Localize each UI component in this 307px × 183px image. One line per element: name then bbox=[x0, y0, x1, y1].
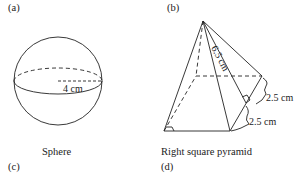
pyramid-half-side-label-lower: 2.5 cm bbox=[249, 117, 276, 127]
brace-lower bbox=[231, 106, 249, 131]
panel-label-d: (d) bbox=[161, 162, 173, 173]
sphere-equator-back bbox=[14, 68, 102, 81]
right-angle-mark-base bbox=[166, 127, 174, 131]
pyramid-caption: Right square pyramid bbox=[161, 147, 252, 158]
base-left-edge bbox=[164, 76, 196, 131]
panel-label-a: (a) bbox=[8, 3, 20, 14]
lateral-edge-back-left bbox=[196, 21, 203, 76]
sphere-figure bbox=[14, 37, 102, 125]
panel-label-b: (b) bbox=[167, 3, 179, 14]
sphere-equator-front bbox=[14, 81, 102, 94]
pyramid-figure bbox=[164, 21, 267, 131]
panel-label-c: (c) bbox=[8, 162, 20, 173]
sphere-radius-label: 4 cm bbox=[63, 84, 83, 94]
sphere-caption: Sphere bbox=[42, 147, 71, 158]
pyramid-half-side-label-upper: 2.5 cm bbox=[266, 93, 293, 103]
